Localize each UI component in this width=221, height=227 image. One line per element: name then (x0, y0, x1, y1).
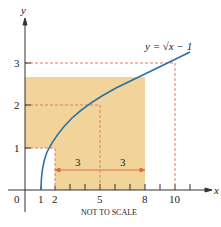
origin-label: 0 (14, 193, 20, 205)
x-tick-10: 10 (169, 193, 181, 205)
y-axis-label: y (20, 4, 26, 16)
y-tick-3: 3 (14, 57, 20, 69)
shaded-region-left (25, 77, 55, 148)
y-tick-2: 2 (14, 99, 20, 111)
x-tick-8: 8 (142, 193, 148, 205)
shaded-region-main (55, 77, 145, 190)
x-axis-arrow-icon (205, 188, 212, 192)
x-axis-label: x (213, 184, 219, 196)
function-diagram: 3 3 y x 0 3 2 1 1 2 5 8 10 y = √x − 1 NO… (0, 0, 221, 227)
not-to-scale-note: NOT TO SCALE (81, 208, 137, 217)
x-tick-5: 5 (97, 193, 103, 205)
interval-left-label: 3 (75, 156, 81, 168)
y-tick-1: 1 (14, 142, 20, 154)
x-tick-2: 2 (52, 193, 58, 205)
x-tick-1: 1 (38, 193, 44, 205)
y-axis-arrow-icon (23, 18, 27, 25)
function-label: y = √x − 1 (144, 40, 192, 52)
interval-right-label: 3 (120, 156, 126, 168)
